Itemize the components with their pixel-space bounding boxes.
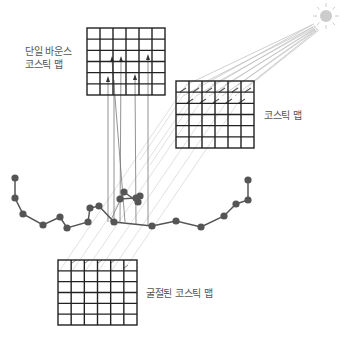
single-bounce-label-line1: 단일 바운스 — [25, 45, 71, 58]
surface-node — [11, 194, 18, 201]
surface-node — [172, 217, 179, 224]
grid-layer — [58, 28, 254, 325]
refracted-caustic-map — [58, 260, 137, 325]
single-bounce-caustic-map — [87, 28, 165, 95]
surface-node — [244, 196, 251, 203]
surface-node — [11, 174, 18, 181]
caustic-map-label: 코스틱 맵 — [264, 109, 302, 122]
incoming-light-rays — [183, 24, 319, 96]
transmitted-light-rays — [60, 85, 250, 270]
sun-icon — [313, 3, 339, 29]
single-bounce-caustic-map-label: 단일 바운스 코스틱 맵 — [25, 45, 71, 71]
single-bounce-label-line2: 코스틱 맵 — [25, 58, 71, 71]
surface-node — [244, 176, 251, 183]
caustic-map — [176, 81, 254, 148]
surface-node — [39, 221, 46, 228]
surface-node — [120, 188, 127, 195]
refracted-caustic-map-label: 굴절된 코스틱 맵 — [146, 287, 213, 300]
surface-node — [134, 198, 141, 205]
surface-node — [110, 218, 117, 225]
surface-node — [19, 210, 26, 217]
surface-node — [56, 213, 63, 220]
surface-node — [84, 218, 91, 225]
surface-node — [116, 195, 123, 202]
surface-node — [95, 202, 102, 209]
surface-node — [148, 222, 155, 229]
surface-node — [220, 212, 227, 219]
surface-node — [197, 223, 204, 230]
surface-node — [63, 224, 70, 231]
refracted-photon-marks — [72, 260, 128, 268]
surface-node — [232, 200, 239, 207]
caustic-map-diagram: 단일 바운스 코스틱 맵 코스틱 맵 굴절된 코스틱 맵 — [0, 0, 352, 339]
surface-node — [86, 204, 93, 211]
